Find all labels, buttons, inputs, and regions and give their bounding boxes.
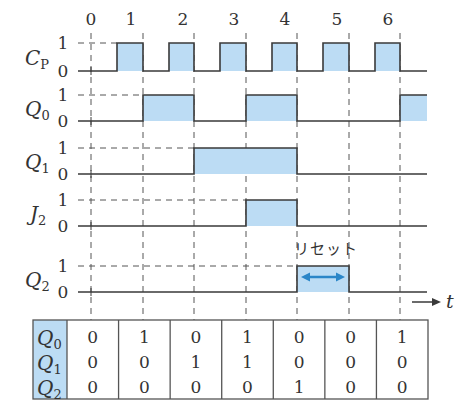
table-cell: 0 — [397, 352, 408, 372]
level-low-label: 0 — [58, 61, 69, 81]
table-cell: 0 — [242, 377, 253, 397]
table-cell: 1 — [294, 377, 305, 397]
time-axis-label: t — [446, 290, 454, 312]
table-column-6: 100 — [397, 327, 408, 397]
table-cell: 0 — [345, 327, 356, 347]
table-cell: 1 — [397, 327, 408, 347]
level-high-label: 1 — [58, 256, 69, 276]
high-pulse — [246, 95, 297, 121]
level-low-label: 0 — [58, 282, 69, 302]
table-cell: 0 — [294, 327, 305, 347]
signal-j2: J210 — [26, 190, 427, 236]
high-pulse — [297, 266, 349, 292]
reset-label: リセット — [294, 240, 358, 258]
table-cell: 0 — [294, 352, 305, 372]
high-pulse — [169, 43, 194, 71]
high-pulse — [272, 43, 297, 71]
table-cell: 0 — [87, 377, 98, 397]
signal-cp: CP10 — [25, 33, 427, 81]
clock-label-4: 4 — [280, 9, 291, 29]
signal-q0: Q010 — [25, 85, 427, 131]
clock-label-5: 5 — [332, 9, 343, 29]
table-column-1: 100 — [139, 327, 150, 397]
high-pulse — [323, 43, 349, 71]
level-high-label: 1 — [58, 190, 69, 210]
waveform-line — [78, 266, 427, 292]
high-pulse — [375, 43, 400, 71]
table-cell: 0 — [139, 377, 150, 397]
clock-count-labels: 0123456 — [86, 9, 394, 29]
signal-waveforms: CP10Q010Q110J210Q210 — [25, 33, 427, 302]
table-cell: 0 — [345, 352, 356, 372]
signal-name-cp: CP — [25, 46, 49, 72]
high-pulse — [117, 43, 143, 71]
table-cell: 1 — [242, 352, 253, 372]
table-cell: 0 — [87, 327, 98, 347]
table-column-3: 110 — [242, 327, 253, 397]
table-cell: 0 — [139, 352, 150, 372]
table-cell: 1 — [242, 327, 253, 347]
clock-label-1: 1 — [126, 9, 137, 29]
level-low-label: 0 — [58, 111, 69, 131]
high-pulse — [194, 148, 297, 174]
high-pulse — [220, 43, 246, 71]
table-cell: 0 — [345, 377, 356, 397]
table-column-2: 010 — [191, 327, 202, 397]
level-high-label: 1 — [58, 138, 69, 158]
table-cell: 0 — [397, 377, 408, 397]
signal-name-q0: Q0 — [25, 97, 50, 123]
level-low-label: 0 — [58, 216, 69, 236]
clock-label-3: 3 — [229, 9, 240, 29]
clock-label-0: 0 — [86, 9, 97, 29]
level-high-label: 1 — [58, 85, 69, 105]
high-pulse — [246, 200, 297, 226]
level-low-label: 0 — [58, 164, 69, 184]
high-pulse — [400, 95, 427, 121]
table-column-4: 001 — [294, 327, 305, 397]
signal-q2: Q210 — [25, 256, 427, 302]
timing-diagram-figure: 0123456 CP10Q010Q110J210Q210 リセット t Q0Q1… — [0, 0, 468, 418]
signal-name-q1: Q1 — [25, 150, 50, 176]
state-table: Q0Q1Q2000100010110001000100 — [33, 320, 428, 402]
table-cell: 0 — [191, 377, 202, 397]
signal-name-j2: J2 — [26, 202, 46, 228]
table-column-5: 000 — [345, 327, 356, 397]
time-axis: t — [412, 290, 454, 312]
timing-diagram-canvas: 0123456 CP10Q010Q110J210Q210 リセット t Q0Q1… — [0, 0, 468, 418]
table-column-0: 000 — [87, 327, 98, 397]
signal-name-q2: Q2 — [25, 268, 50, 294]
arrow-right-icon — [412, 298, 441, 306]
signal-q1: Q110 — [25, 138, 427, 184]
clock-label-6: 6 — [383, 9, 394, 29]
clock-label-2: 2 — [178, 9, 189, 29]
table-cell: 0 — [87, 352, 98, 372]
table-cell: 0 — [191, 327, 202, 347]
table-cell: 1 — [139, 327, 150, 347]
high-pulse — [143, 95, 194, 121]
clock-gridlines — [91, 33, 400, 320]
level-high-label: 1 — [58, 33, 69, 53]
table-cell: 1 — [191, 352, 202, 372]
